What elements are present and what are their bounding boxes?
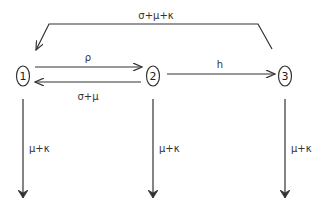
arrow-icon [36,24,272,50]
edge-label-2-1: σ+μ [77,91,99,102]
edge-3-out: μ+κ [285,99,312,198]
edge-1-to-2: ρ [35,52,142,67]
edge-2-out: μ+κ [153,99,180,198]
edge-label-2-3: h [217,59,223,70]
node-1-label: 1 [20,70,27,83]
edge-2-to-1: σ+μ [35,82,141,102]
edge-label-3-out: μ+κ [291,143,312,154]
edge-label-3-1: σ+μ+κ [138,10,173,21]
edge-3-to-1: σ+μ+κ [36,10,272,50]
node-2: 2 [147,66,160,86]
edge-1-out: μ+κ [23,99,50,198]
node-3: 3 [279,66,292,86]
edge-2-to-3: h [167,59,275,74]
node-2-label: 2 [150,70,157,83]
flow-diagram: 1 2 3 σ+μ+κ ρ σ+μ h μ+κ μ+κ μ+κ [0,0,322,210]
edge-label-1-2: ρ [85,52,91,63]
edge-label-2-out: μ+κ [159,143,180,154]
node-3-label: 3 [282,70,289,83]
edge-label-1-out: μ+κ [29,143,50,154]
node-1: 1 [17,66,30,86]
